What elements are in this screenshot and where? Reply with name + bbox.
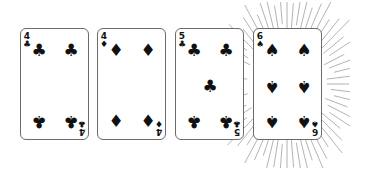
club-icon: ♣: [63, 113, 78, 130]
spade-icon: ♠: [296, 113, 311, 130]
diamond-icon: ♦: [140, 42, 155, 59]
card-corner: 4♣: [23, 32, 31, 48]
card-4-clubs[interactable]: 4♣ ♣ ♣ ♣ ♣ 4♣: [20, 28, 89, 140]
diamond-icon: ♦: [108, 113, 123, 130]
spade-icon: ♠: [296, 42, 311, 59]
club-icon: ♣: [31, 113, 46, 130]
card-6-spades[interactable]: 6♠ ♠ ♠ ♠ ♠ ♠ ♠ 6♠: [253, 28, 322, 140]
card-corner: 4♦: [100, 32, 108, 48]
diamond-icon: ♦: [140, 113, 155, 130]
card-4-diamonds[interactable]: 4♦ ♦ ♦ ♦ ♦ 4♦: [97, 28, 166, 140]
club-icon: ♣: [186, 113, 201, 130]
club-icon: ♣: [63, 42, 78, 59]
card-corner: 5♣: [178, 32, 186, 48]
club-icon: ♣: [31, 42, 46, 59]
spade-icon: ♠: [264, 42, 279, 59]
diamond-icon: ♦: [108, 42, 123, 59]
card-corner: 5♣: [233, 120, 241, 136]
club-icon: ♣: [218, 113, 233, 130]
card-corner: 4♣: [78, 120, 86, 136]
card-5-clubs[interactable]: 5♣ ♣ ♣ ♣ ♣ ♣ 5♣: [175, 28, 244, 140]
spade-icon: ♠: [264, 78, 279, 95]
spade-icon: ♠: [264, 113, 279, 130]
card-corner: 6♠: [256, 32, 264, 48]
card-corner: 4♦: [155, 120, 163, 136]
club-icon: ♣: [202, 78, 217, 95]
card-corner: 6♠: [311, 120, 319, 136]
club-icon: ♣: [218, 42, 233, 59]
club-icon: ♣: [186, 42, 201, 59]
spade-icon: ♠: [296, 78, 311, 95]
